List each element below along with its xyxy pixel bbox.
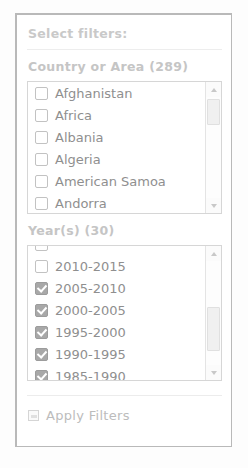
country-filter-section: Country or Area (289) Afghanistan Africa… [17,50,231,214]
checkbox-checked-icon[interactable] [35,370,48,381]
list-item-label: 2005-2010 [55,282,126,295]
year-filter-section: Year(s) (30) 2010-2015 2005-2010 [17,214,231,381]
checkbox-checked-icon[interactable] [35,348,48,361]
scrollbar-thumb[interactable] [207,99,220,125]
year-list-items: 2010-2015 2005-2010 2000-2005 1995-2000 [28,246,205,380]
country-list-viewport: Afghanistan Africa Albania Algeria [28,82,205,213]
scrollbar-thumb[interactable] [207,307,220,351]
list-item[interactable]: 1985-1990 [28,365,205,380]
list-item-label: 1995-2000 [55,326,126,339]
list-item[interactable]: 2010-2015 [28,255,205,277]
list-item-label: American Samoa [55,175,166,188]
checkbox-unchecked-icon[interactable] [35,109,48,122]
country-section-label: Country or Area (289) [27,50,222,81]
list-item-label: Andorra [55,197,107,210]
scroll-up-arrow-icon [211,252,217,256]
country-list-items: Afghanistan Africa Albania Algeria [28,82,205,213]
list-item[interactable]: Albania [28,126,205,148]
list-item[interactable]: Algeria [28,148,205,170]
checkbox-unchecked-icon[interactable] [35,87,48,100]
list-item[interactable]: Afghanistan [28,82,205,104]
apply-filters-label: Apply Filters [46,408,130,423]
apply-filters-button[interactable]: Apply Filters [17,396,231,423]
list-item[interactable] [28,246,205,255]
list-item-label: Algeria [55,153,101,166]
checkbox-unchecked-icon[interactable] [35,131,48,144]
year-list-scrollbar[interactable] [205,246,221,380]
checkbox-checked-icon[interactable] [35,304,48,317]
list-item[interactable]: Andorra [28,192,205,213]
checkbox-unchecked-icon[interactable] [35,246,48,251]
checkbox-checked-icon[interactable] [35,282,48,295]
scroll-down-button[interactable] [206,198,221,213]
scroll-down-arrow-icon [211,371,217,375]
list-item-label: 1985-1990 [55,370,126,381]
checkbox-unchecked-icon[interactable] [35,197,48,210]
year-list-viewport: 2010-2015 2005-2010 2000-2005 1995-2000 [28,246,205,380]
list-item-label: Afghanistan [55,87,132,100]
checkbox-unchecked-icon[interactable] [35,153,48,166]
country-listbox[interactable]: Afghanistan Africa Albania Algeria [27,81,222,214]
checkbox-unchecked-icon[interactable] [35,260,48,273]
scrollbar-track[interactable] [206,261,221,365]
scroll-down-arrow-icon [211,204,217,208]
year-section-label: Year(s) (30) [27,214,222,245]
list-item[interactable]: 2000-2005 [28,299,205,321]
panel-title: Select filters: [17,15,231,49]
scroll-up-button[interactable] [206,82,221,97]
scroll-up-button[interactable] [206,246,221,261]
scrollbar-track[interactable] [206,97,221,198]
filter-panel: Select filters: Country or Area (289) Af… [15,13,232,447]
list-item[interactable]: Africa [28,104,205,126]
scroll-up-arrow-icon [211,88,217,92]
list-item[interactable]: 1995-2000 [28,321,205,343]
checkbox-unchecked-icon[interactable] [35,175,48,188]
checkbox-checked-icon[interactable] [35,326,48,339]
scroll-down-button[interactable] [206,365,221,380]
list-item[interactable]: 1990-1995 [28,343,205,365]
list-item-label: Africa [55,109,92,122]
list-item[interactable]: American Samoa [28,170,205,192]
list-item-label: 2010-2015 [55,260,126,273]
list-item-label: 2000-2005 [55,304,126,317]
year-listbox[interactable]: 2010-2015 2005-2010 2000-2005 1995-2000 [27,245,222,381]
list-item[interactable]: 2005-2010 [28,277,205,299]
list-item-label: Albania [55,131,104,144]
list-item-label: 1990-1995 [55,348,126,361]
country-list-scrollbar[interactable] [205,82,221,213]
checkbox-small-icon [28,410,39,421]
